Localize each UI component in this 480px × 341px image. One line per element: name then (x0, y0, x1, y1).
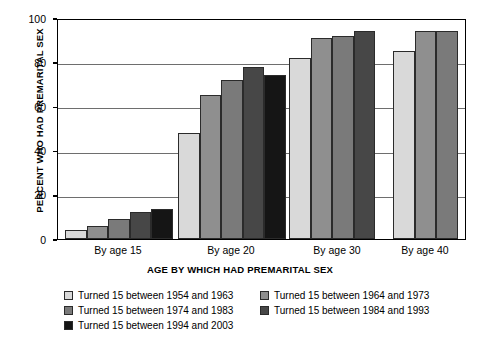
bar (415, 31, 437, 239)
bar (178, 133, 200, 239)
plot-area (57, 19, 466, 240)
x-group-label: By age 20 (171, 244, 291, 256)
bar (243, 67, 265, 239)
y-tick-label: 80 (0, 58, 46, 69)
y-tick-label: 0 (0, 235, 46, 246)
bar (200, 95, 222, 239)
legend-entry: Turned 15 between 1954 and 1963 (64, 291, 260, 301)
legend-entry: Turned 15 between 1994 and 2003 (64, 321, 260, 331)
bar (311, 38, 333, 239)
x-axis-title: AGE BY WHICH HAD PREMARITAL SEX (0, 264, 480, 275)
legend: Turned 15 between 1954 and 1963Turned 15… (64, 288, 464, 333)
legend-entry: Turned 15 between 1974 and 1983 (64, 306, 260, 316)
legend-label: Turned 15 between 1994 and 2003 (78, 321, 233, 331)
y-axis-title: PERCENT WHO HAD PREMARITAL SEX (34, 6, 45, 236)
bar (130, 212, 152, 239)
legend-entry: Turned 15 between 1984 and 1993 (260, 306, 429, 316)
legend-row: Turned 15 between 1994 and 2003 (64, 318, 464, 333)
bar (289, 58, 311, 239)
legend-label: Turned 15 between 1974 and 1983 (78, 306, 233, 316)
legend-label: Turned 15 between 1954 and 1963 (78, 291, 233, 301)
legend-row: Turned 15 between 1974 and 1983Turned 15… (64, 303, 464, 318)
legend-swatch (260, 306, 269, 315)
legend-swatch (64, 321, 73, 330)
y-tick-label: 60 (0, 102, 46, 113)
legend-label: Turned 15 between 1984 and 1993 (274, 306, 429, 316)
legend-swatch (64, 306, 73, 315)
legend-row: Turned 15 between 1954 and 1963Turned 15… (64, 288, 464, 303)
y-tick-label: 20 (0, 190, 46, 201)
legend-entry: Turned 15 between 1964 and 1973 (260, 291, 429, 301)
bar (264, 75, 286, 239)
legend-label: Turned 15 between 1964 and 1973 (274, 291, 429, 301)
bar (87, 226, 109, 239)
x-group-label: By age 15 (58, 244, 178, 256)
legend-swatch (64, 291, 73, 300)
bar (108, 219, 130, 239)
bar (332, 36, 354, 239)
legend-swatch (260, 291, 269, 300)
bar (436, 31, 458, 239)
bar (221, 80, 243, 239)
bar-chart: PERCENT WHO HAD PREMARITAL SEX 020406080… (0, 0, 480, 341)
y-tick-label: 100 (0, 14, 46, 25)
bar (65, 230, 87, 239)
x-group-label: By age 40 (365, 244, 480, 256)
bar (354, 31, 376, 239)
bar (151, 209, 173, 239)
y-tick-label: 40 (0, 146, 46, 157)
bar (393, 51, 415, 239)
